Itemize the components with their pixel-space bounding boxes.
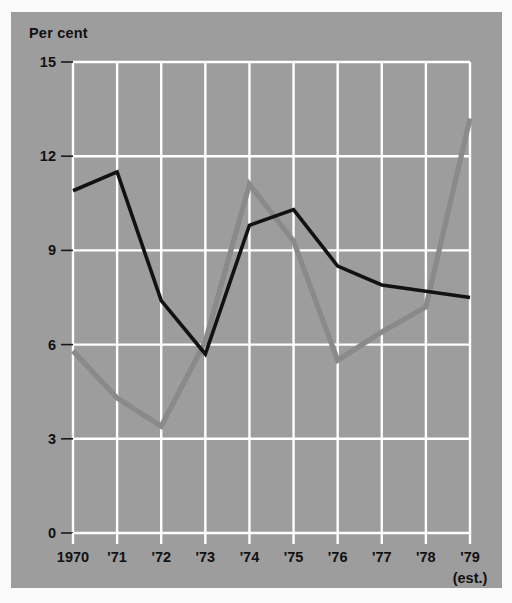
x-tick-label: '72 [151, 549, 171, 565]
x-tick-label: '77 [372, 549, 392, 565]
y-tick-label: 9 [16, 242, 56, 258]
y-tick-label: 3 [16, 431, 56, 447]
x-tick-sublabel: (est.) [453, 570, 488, 586]
y-tick-label: 0 [16, 525, 56, 541]
y-tick-label: 12 [16, 148, 56, 164]
chart-figure: Per cent 03691215 1970'71'72'73'74'75'76… [0, 0, 512, 603]
x-tick-label: '74 [240, 549, 260, 565]
axis-ticks [61, 62, 470, 544]
plot-area [0, 0, 512, 603]
gridlines [73, 62, 470, 533]
x-tick-label: '76 [328, 549, 348, 565]
y-tick-label: 6 [16, 337, 56, 353]
x-tick-label: '75 [284, 549, 304, 565]
x-tick-label: '78 [416, 549, 436, 565]
series-line-gray-line [73, 119, 470, 427]
data-series [73, 119, 470, 427]
x-tick-label: '73 [196, 549, 216, 565]
x-tick-label: 1970 [57, 549, 89, 565]
y-tick-label: 15 [16, 54, 56, 70]
series-line-black-line [73, 172, 470, 354]
x-tick-label: '79 [460, 549, 480, 565]
x-tick-label: '71 [107, 549, 127, 565]
